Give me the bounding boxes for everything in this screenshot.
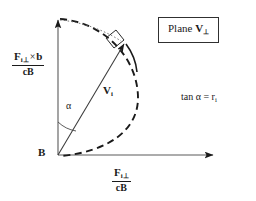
tan-equals-sign: = (203, 91, 209, 102)
left-frac-numerator-second: b (36, 50, 42, 62)
bottom-frac-numerator-main: F (114, 166, 121, 178)
tangent-relation-annotation: tan α = ri (181, 92, 217, 104)
plane-vector-subscript: ⊥ (203, 28, 209, 36)
dotted-guide-line (60, 20, 121, 41)
left-frac-numerator-main: F (14, 50, 21, 62)
trajectory-arc (60, 19, 138, 156)
bottom-frac-denominator: cB (112, 182, 131, 193)
left-frac-denominator: cB (12, 66, 44, 77)
magnetic-field-origin-label: B (38, 147, 45, 158)
vector-diagram-figure: Fi⊥×b cB Fi⊥ cB Plane V⊥ tan α = ri Vi α… (0, 0, 256, 201)
horizontal-axis-label: Fi⊥ cB (112, 167, 131, 193)
arc-tangent-arrow (126, 44, 137, 72)
left-frac-numerator-sub: i⊥ (21, 56, 29, 64)
plane-prefix: Plane (168, 22, 192, 34)
tan-result-subscript: i (215, 96, 217, 104)
bottom-frac-numerator-sub: i⊥ (121, 172, 129, 180)
angle-alpha-label: α (66, 101, 71, 111)
plane-label-box: Plane V⊥ (158, 17, 219, 43)
velocity-vector-label: Vi (103, 85, 113, 98)
vertical-axis-label: Fi⊥×b cB (12, 51, 44, 77)
tan-function: tan (181, 91, 193, 102)
tan-angle-symbol: α (196, 91, 201, 102)
plane-vector-symbol: V (195, 22, 203, 34)
velocity-vector-subscript: i (111, 90, 113, 98)
velocity-vector-main: V (103, 84, 111, 96)
